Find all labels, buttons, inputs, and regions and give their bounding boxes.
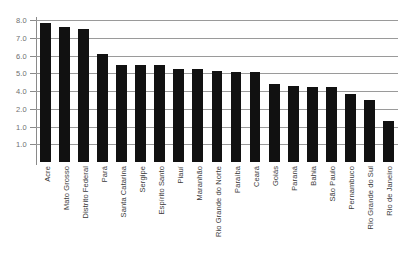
bar[interactable] bbox=[345, 94, 356, 162]
x-axis-slot: Espírito Santo bbox=[150, 164, 169, 272]
x-axis-tick-label: Rio Grande do Sul bbox=[366, 166, 375, 229]
bar-slot bbox=[341, 20, 360, 162]
x-axis-tick-label: Rio de Janeiro bbox=[385, 166, 394, 216]
x-axis-tick-label: Ceará bbox=[252, 166, 261, 187]
x-axis-tick-label: Pernambuco bbox=[347, 166, 356, 210]
bar[interactable] bbox=[383, 121, 394, 162]
x-axis-tick-label: São Paulo bbox=[328, 166, 337, 202]
x-axis-slot: Pará bbox=[93, 164, 112, 272]
bar-slot bbox=[150, 20, 169, 162]
x-axis-slot: Acre bbox=[36, 164, 55, 272]
x-axis-tick-label: Rio Grande do Norte bbox=[213, 166, 222, 237]
bar-slot bbox=[284, 20, 303, 162]
x-axis-tick-label: Espírito Santo bbox=[156, 166, 165, 215]
bar-slot bbox=[36, 20, 55, 162]
bar[interactable] bbox=[212, 71, 223, 162]
x-axis-tick-label: Sergipe bbox=[137, 166, 146, 193]
x-axis-tick-label: Bahia bbox=[309, 166, 318, 186]
x-axis-slot: Ceará bbox=[246, 164, 265, 272]
x-axis-slot: Santa Catarina bbox=[112, 164, 131, 272]
bar[interactable] bbox=[173, 69, 184, 162]
y-axis-tick-label: 6.0 bbox=[16, 51, 27, 60]
x-axis-tick-label: Maranhão bbox=[194, 166, 203, 201]
bar-slot bbox=[379, 20, 398, 162]
x-axis-slot: Maranhão bbox=[188, 164, 207, 272]
x-axis-slot: Rio de Janeiro bbox=[379, 164, 398, 272]
x-axis-tick-label: Goiás bbox=[271, 166, 280, 186]
x-axis-tick-label: Mato Grosso bbox=[61, 166, 70, 210]
bar-chart: 8.07.06.05.04.02.01.01.0 AcreMato Grosso… bbox=[0, 0, 410, 274]
plot-area bbox=[36, 20, 398, 162]
bar[interactable] bbox=[307, 87, 318, 162]
x-axis-slot: Bahia bbox=[303, 164, 322, 272]
y-axis-tick-label: 5.0 bbox=[16, 69, 27, 78]
bar[interactable] bbox=[78, 29, 89, 162]
bar-slot bbox=[188, 20, 207, 162]
x-axis-slot: Mato Grosso bbox=[55, 164, 74, 272]
x-axis-slot: Paraná bbox=[284, 164, 303, 272]
x-axis-tick-label: Acre bbox=[42, 166, 51, 182]
bar[interactable] bbox=[192, 69, 203, 162]
bar-slot bbox=[55, 20, 74, 162]
x-axis-tick-label: Paraíba bbox=[232, 166, 241, 193]
y-axis-tick-label: 1.0 bbox=[16, 140, 27, 149]
bar-series bbox=[36, 20, 398, 162]
x-axis-tick-label: Piauí bbox=[175, 166, 184, 184]
x-axis-slot: Rio Grande do Sul bbox=[360, 164, 379, 272]
y-axis-tick-label: 8.0 bbox=[16, 16, 27, 25]
x-axis-slot: Piauí bbox=[169, 164, 188, 272]
bar-slot bbox=[303, 20, 322, 162]
x-axis: AcreMato GrossoDistrito FederalParáSanta… bbox=[36, 164, 398, 272]
bar-slot bbox=[112, 20, 131, 162]
bar-slot bbox=[169, 20, 188, 162]
y-axis-tick-label: 2.0 bbox=[16, 104, 27, 113]
x-axis-slot: Paraíba bbox=[226, 164, 245, 272]
x-axis-slot: Rio Grande do Norte bbox=[207, 164, 226, 272]
x-axis-tick-label: Distrito Federal bbox=[80, 166, 89, 218]
bar-slot bbox=[74, 20, 93, 162]
x-axis-tick-label: Paraná bbox=[290, 166, 299, 191]
bar[interactable] bbox=[231, 72, 242, 162]
bar-slot bbox=[131, 20, 150, 162]
bar-slot bbox=[226, 20, 245, 162]
bar[interactable] bbox=[154, 65, 165, 162]
bar[interactable] bbox=[135, 65, 146, 162]
bar-slot bbox=[322, 20, 341, 162]
x-axis-slot: Pernambuco bbox=[341, 164, 360, 272]
x-axis-tick-label: Pará bbox=[99, 166, 108, 182]
bar-slot bbox=[93, 20, 112, 162]
bar[interactable] bbox=[40, 23, 51, 162]
bar[interactable] bbox=[59, 27, 70, 162]
x-axis-slot: São Paulo bbox=[322, 164, 341, 272]
x-axis-slot: Distrito Federal bbox=[74, 164, 93, 272]
bar-slot bbox=[360, 20, 379, 162]
bar-slot bbox=[207, 20, 226, 162]
bar[interactable] bbox=[116, 65, 127, 162]
y-axis-tick-label: 7.0 bbox=[16, 33, 27, 42]
bar[interactable] bbox=[97, 54, 108, 162]
bar[interactable] bbox=[364, 100, 375, 162]
x-axis-tick-label: Santa Catarina bbox=[118, 166, 127, 217]
bar[interactable] bbox=[269, 84, 280, 162]
bar[interactable] bbox=[250, 72, 261, 162]
bar[interactable] bbox=[326, 87, 337, 162]
bar[interactable] bbox=[288, 86, 299, 162]
bar-slot bbox=[265, 20, 284, 162]
x-axis-slot: Goiás bbox=[265, 164, 284, 272]
y-axis-tick-label: 4.0 bbox=[16, 87, 27, 96]
bar-slot bbox=[246, 20, 265, 162]
x-axis-slot: Sergipe bbox=[131, 164, 150, 272]
y-axis-tick-label: 1.0 bbox=[16, 122, 27, 131]
